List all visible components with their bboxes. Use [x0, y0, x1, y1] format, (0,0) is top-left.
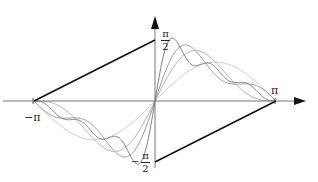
- x-tick-label-neg-pi: −π: [24, 112, 40, 123]
- y-axis-arrow-icon: [151, 16, 159, 29]
- y-neg-denominator: 2: [142, 163, 148, 174]
- x-tick-label-pi: π: [271, 85, 278, 96]
- y-neg-numerator: π: [142, 150, 149, 161]
- y-tick-label-neg-pi-over-2: π 2: [141, 151, 150, 174]
- y-pos-denominator: 2: [162, 41, 168, 52]
- y-tick-label-pi-over-2: π 2: [161, 29, 170, 52]
- x-axis-arrow-icon: [294, 97, 306, 105]
- y-pos-numerator: π: [162, 28, 169, 39]
- y-neg-sign: −: [131, 157, 139, 167]
